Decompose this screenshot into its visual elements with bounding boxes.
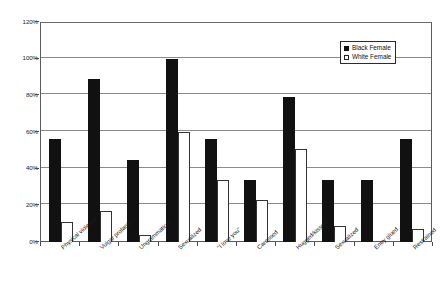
bar-black-female: [244, 180, 256, 242]
x-tick-label: Ungrammatical: [138, 246, 143, 251]
bar-chart: 0%20%40%60%80%100%120% Physical violence…: [0, 0, 444, 301]
bar-black-female: [166, 59, 178, 242]
bar-black-female: [361, 180, 373, 242]
y-tick-mark: [35, 58, 39, 59]
bar-group: [275, 22, 314, 242]
y-tick-label: 40%: [4, 165, 38, 171]
bar-black-female: [127, 160, 139, 243]
bar-black-female: [283, 97, 295, 242]
legend-item-white-female: White Female: [344, 53, 391, 61]
y-tick-label: 80%: [4, 92, 38, 98]
y-tick-mark: [35, 168, 39, 169]
y-tick-mark: [35, 94, 39, 95]
legend-label: White Female: [352, 53, 391, 61]
bar-white-female: [178, 132, 190, 242]
y-tick-mark: [35, 241, 39, 242]
x-axis-labels: Physical violenceVulgar profanityUngramm…: [40, 246, 432, 301]
bar-group: [392, 22, 431, 242]
bar-group: [197, 22, 236, 242]
y-tick-label: 100%: [4, 55, 38, 61]
x-tick-label: Entry glued: [373, 246, 378, 251]
y-tick-mark: [35, 21, 39, 22]
y-tick-label: 20%: [4, 202, 38, 208]
bar-black-female: [49, 139, 61, 242]
y-tick-label: 120%: [4, 19, 38, 25]
bar-white-female: [217, 180, 229, 242]
bar-group: [41, 22, 80, 242]
x-tick-label: Vulgar profanity: [99, 246, 104, 251]
y-tick-mark: [35, 131, 39, 132]
y-tick-label: 0%: [4, 239, 38, 245]
x-tick-label: Hugged/kissed: [295, 246, 300, 251]
y-tick-label: 60%: [4, 129, 38, 135]
bar-white-female: [295, 149, 307, 243]
x-tick-label: "I love you": [216, 246, 221, 251]
bar-black-female: [205, 139, 217, 242]
y-tick-mark: [35, 204, 39, 205]
bar-black-female: [322, 180, 334, 242]
bar-group: [236, 22, 275, 242]
bar-group: [80, 22, 119, 242]
x-tick-label: Physical violence: [60, 246, 65, 251]
filled-square-icon: [344, 46, 349, 51]
x-tick-label: Caressed: [256, 246, 261, 251]
bar-black-female: [400, 139, 412, 242]
x-tick-mark: [432, 242, 433, 246]
bar-group: [119, 22, 158, 242]
legend-item-black-female: Black Female: [344, 44, 391, 52]
y-axis: 0%20%40%60%80%100%120%: [0, 22, 38, 242]
hollow-square-icon: [344, 55, 349, 60]
chart-legend: Black Female White Female: [340, 41, 396, 64]
x-tick-label: Sexualized: [334, 246, 339, 251]
bar-group: [158, 22, 197, 242]
x-tick-label: Sexualized: [177, 246, 182, 251]
x-tick-label: Restrained: [412, 246, 417, 251]
legend-label: Black Female: [352, 44, 391, 52]
